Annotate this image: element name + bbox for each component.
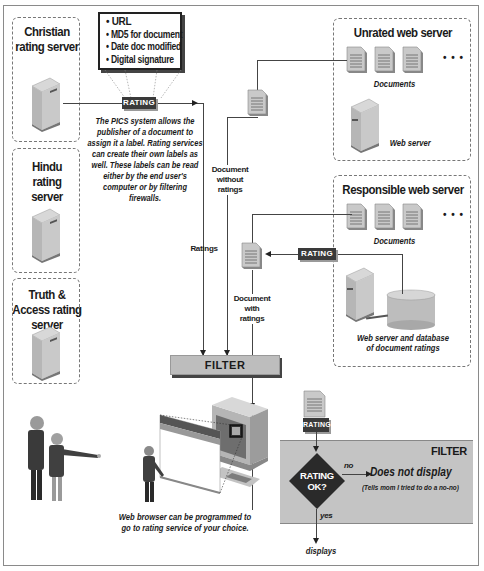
- connector-line: [270, 254, 402, 255]
- rated-document-icon: [303, 390, 329, 418]
- connector-line: [227, 117, 258, 118]
- filter-panel-title: FILTER: [431, 445, 467, 457]
- server-tower-icon: [28, 76, 64, 132]
- hindu-rating-server-label: Hindu rating server: [31, 159, 63, 204]
- documents-stack: • • •: [346, 46, 466, 74]
- document-without-ratings-label: Document without ratings: [210, 165, 250, 195]
- christian-rating-server-title: Christian rating server: [12, 24, 82, 54]
- pics-description: The PICS system allows the publisher of …: [86, 116, 204, 204]
- rating-tag: RATING: [303, 418, 329, 432]
- documents-stack: • • •: [346, 203, 466, 231]
- no-label: no: [344, 461, 353, 470]
- connector-line: [252, 214, 253, 244]
- connector-line: [402, 254, 403, 294]
- unrated-web-server-title: Unrated web server: [342, 25, 463, 40]
- connector-line: [252, 214, 352, 215]
- christian-rating-server-box: Christian rating server: [12, 17, 80, 142]
- arrow-down-icon: [313, 538, 319, 544]
- hindu-rating-server-box: Hindu rating server: [12, 148, 80, 273]
- no-outcome: Does not display: [370, 465, 452, 479]
- label-item-date: • Date doc modified: [106, 41, 170, 54]
- documents-label: Documents: [374, 236, 416, 246]
- ratings-label: Ratings: [190, 244, 218, 254]
- web-server-label: Web server: [390, 138, 431, 148]
- unrated-web-server-box: Unrated web server • • • Documents Web s…: [333, 18, 471, 161]
- document-with-ratings-label: Document with ratings: [232, 294, 272, 324]
- rating-tag: RATING: [298, 248, 336, 260]
- web-server-tower-icon: [347, 97, 383, 153]
- connector-line: [257, 60, 258, 90]
- label-item-url: • URL: [106, 16, 180, 29]
- rating-tag: RATING: [122, 97, 156, 109]
- db-label: Web server and database of document rati…: [346, 333, 460, 353]
- document-with-ratings-icon: [241, 242, 263, 270]
- documents-label: Documents: [374, 79, 416, 89]
- web-server-tower-icon: [342, 266, 378, 322]
- more-documents-ellipsis: • • •: [443, 52, 464, 63]
- arrow-down-icon: [313, 446, 319, 452]
- decision-label: RATING OK?: [289, 470, 345, 492]
- no-outcome-note: (Tells mom I tried to do a no-no): [362, 483, 459, 492]
- rating-ok-decision: RATING OK?: [289, 453, 345, 509]
- connector-line: [257, 60, 347, 61]
- server-tower-icon: [28, 325, 64, 381]
- responsible-web-server-title: Responsible web server: [339, 182, 467, 197]
- server-tower-icon: [28, 207, 64, 263]
- more-documents-ellipsis: • • •: [443, 209, 464, 220]
- yes-label: yes: [320, 511, 332, 520]
- yes-branch-line: [316, 509, 317, 541]
- filter-bar-label: FILTER: [171, 356, 279, 374]
- truth-access-rating-server-box: Truth & Access rating server: [12, 278, 80, 384]
- document-without-ratings-icon: [247, 89, 269, 117]
- yes-outcome: displays: [306, 546, 337, 556]
- no-branch-line: [342, 474, 368, 475]
- label-item-signature: • Digital signature: [106, 54, 170, 67]
- arrow-right-icon: [192, 100, 198, 106]
- filter-bar: FILTER: [170, 355, 280, 375]
- arrow-left-icon: [265, 251, 271, 257]
- browser-caption: Web browser can be programmed to go to r…: [113, 512, 258, 534]
- family-figures-illustration: [22, 415, 102, 505]
- database-cylinder-icon: [386, 289, 436, 331]
- label-contents-box: • URL • MD5 for document • Date doc modi…: [98, 12, 182, 70]
- child-figure-illustration: [140, 445, 170, 505]
- connector-line: [227, 117, 228, 355]
- hindu-rating-server-title: Hindu rating server: [17, 159, 77, 204]
- label-item-md5: • MD5 for document: [106, 29, 170, 42]
- callout-lines: [95, 70, 195, 100]
